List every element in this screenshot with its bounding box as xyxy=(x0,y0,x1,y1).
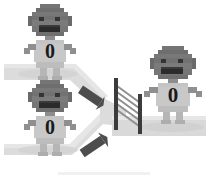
robot-legs xyxy=(161,112,185,124)
robot-bottom-left[interactable]: 0 xyxy=(20,80,86,158)
robot-legs xyxy=(38,144,62,156)
scene-canvas: 0 xyxy=(0,0,216,181)
robot-legs xyxy=(38,68,62,80)
gate-post-left xyxy=(114,78,118,130)
robot-eye-left xyxy=(161,59,166,63)
robot-eye-right xyxy=(178,59,183,63)
robot-eye-right xyxy=(55,93,60,97)
ground-scuff xyxy=(58,172,150,175)
robot-chest-digit: 0 xyxy=(45,40,55,62)
robot-head xyxy=(28,4,72,36)
robot-chest-digit: 0 xyxy=(168,83,179,107)
robot-chest-digit: 0 xyxy=(45,116,55,138)
robot-head xyxy=(150,46,196,79)
robot-eye-right xyxy=(55,17,60,21)
gate-slats xyxy=(117,86,139,126)
robot-eye-left xyxy=(39,17,44,21)
robot-head xyxy=(28,80,72,112)
robot-top-left[interactable]: 0 xyxy=(20,4,86,82)
robot-eye-left xyxy=(39,93,44,97)
robot-right[interactable]: 0 xyxy=(140,44,210,128)
